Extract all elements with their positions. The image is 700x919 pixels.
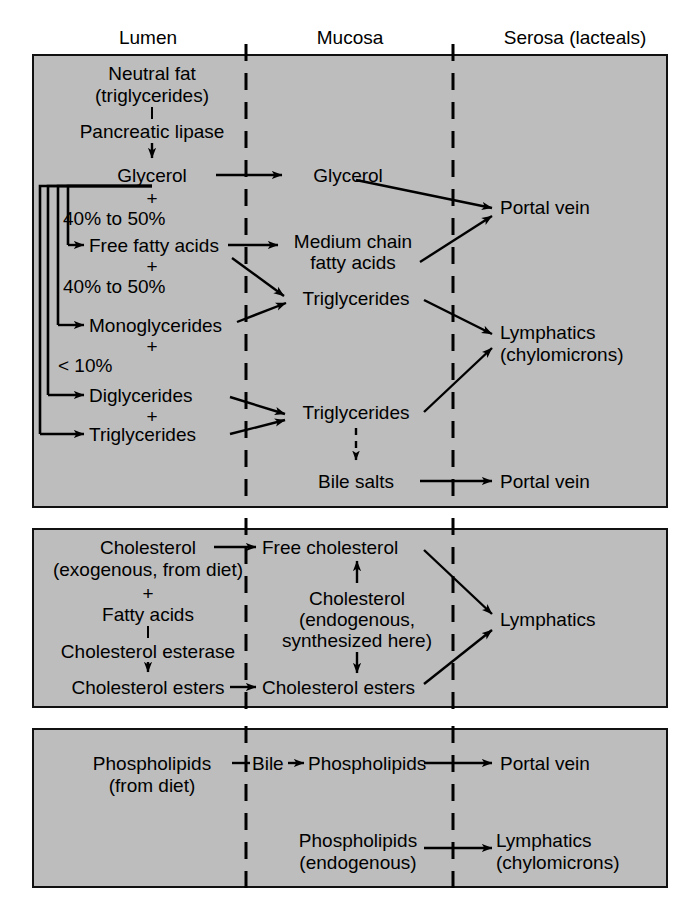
node-pancreatic-lipase: Pancreatic lipase: [50, 121, 254, 143]
node-glycerol-mucosa: Glycerol: [288, 165, 408, 187]
node-lymphatics-cholesterol: Lymphatics: [500, 609, 660, 631]
node-neutral-fat-sub: (triglycerides): [62, 85, 242, 107]
column-header-serosa: Serosa (lacteals): [475, 27, 675, 49]
node-bile-salts: Bile salts: [286, 471, 426, 493]
label-percent-small: < 10%: [58, 355, 112, 377]
node-neutral-fat: Neutral fat: [62, 63, 242, 85]
column-header-mucosa: Mucosa: [280, 27, 420, 49]
node-triglycerides-mucosa-1: Triglycerides: [271, 288, 441, 310]
node-triglycerides-lumen: Triglycerides: [89, 424, 259, 446]
node-free-cholesterol: Free cholesterol: [262, 537, 462, 559]
node-phospholipids-endogenous-sub: (endogenous): [268, 852, 448, 874]
label-percent-fatty-acids: 40% to 50%: [63, 208, 165, 230]
figure-canvas: Lumen Mucosa Serosa (lacteals) Neutral f…: [0, 0, 700, 919]
node-cholesterol-esters-lumen: Cholesterol esters: [40, 677, 256, 699]
node-cholesterol-esterase: Cholesterol esterase: [34, 641, 262, 663]
node-portal-vein-phospholipid: Portal vein: [500, 753, 660, 775]
node-cholesterol-endogenous: Cholesterol: [262, 588, 452, 609]
plus-sign-cholesterol: +: [58, 583, 238, 605]
node-medium-chain-fatty-acids-line2: fatty acids: [273, 252, 433, 273]
node-lymphatics-phospholipid-sub: (chylomicrons): [496, 852, 686, 874]
node-phospholipids-endogenous: Phospholipids: [268, 830, 448, 852]
label-percent-monoglycerides: 40% to 50%: [63, 276, 165, 298]
node-phospholipids-diet: Phospholipids: [62, 753, 242, 775]
node-cholesterol-exogenous: Cholesterol: [58, 537, 238, 559]
plus-sign-1: +: [92, 188, 212, 210]
node-medium-chain-fatty-acids: Medium chain: [273, 231, 433, 252]
node-portal-vein-1: Portal vein: [500, 197, 650, 219]
node-glycerol-lumen: Glycerol: [92, 165, 212, 187]
node-free-fatty-acids: Free fatty acids: [89, 235, 259, 257]
node-diglycerides: Diglycerides: [89, 385, 259, 407]
node-portal-vein-2: Portal vein: [500, 471, 650, 493]
node-cholesterol-endogenous-line3: synthesized here): [262, 630, 452, 651]
node-cholesterol-esters-mucosa: Cholesterol esters: [262, 677, 462, 699]
label-bile: Bile: [252, 753, 284, 775]
node-lymphatics-phospholipid: Lymphatics: [496, 830, 686, 852]
node-phospholipids-mucosa: Phospholipids: [308, 753, 488, 775]
node-cholesterol-endogenous-line2: (endogenous,: [262, 609, 452, 630]
plus-sign-2: +: [92, 256, 212, 278]
node-lymphatics-1-sub: (chylomicrons): [500, 344, 680, 366]
column-header-lumen: Lumen: [78, 27, 218, 49]
node-fatty-acids: Fatty acids: [58, 604, 238, 626]
node-triglycerides-mucosa-2: Triglycerides: [271, 402, 441, 424]
node-cholesterol-exogenous-sub: (exogenous, from diet): [34, 559, 262, 581]
node-phospholipids-diet-sub: (from diet): [62, 775, 242, 797]
node-lymphatics-1: Lymphatics: [500, 322, 680, 344]
node-monoglycerides: Monoglycerides: [89, 315, 269, 337]
